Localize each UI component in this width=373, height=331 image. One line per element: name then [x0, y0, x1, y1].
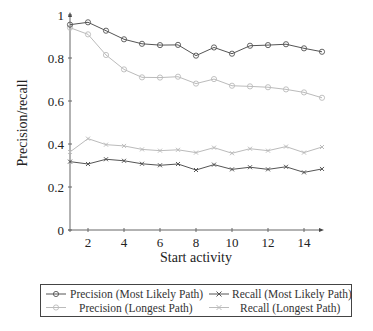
y-tick-label: 0.6: [48, 94, 65, 109]
x-tick-label: 10: [226, 235, 239, 250]
legend: Precision (Most Likely Path) Recall (Mos…: [41, 285, 352, 317]
x-tick-label: 12: [262, 235, 275, 250]
axes: [68, 12, 324, 232]
series-recall-longest-path: [68, 137, 324, 156]
y-tick-label: 0: [58, 223, 65, 238]
x-tick-label: 4: [121, 235, 128, 250]
x-tick-label: 6: [157, 235, 164, 250]
svg-text:Recall (Most Likely Path): Recall (Most Likely Path): [232, 288, 352, 301]
x-tick-label: 14: [298, 235, 312, 250]
y-axis-label: Precision/recall: [15, 79, 30, 166]
svg-text:Recall (Longest Path): Recall (Longest Path): [240, 302, 340, 315]
y-tick-label: 0.4: [48, 137, 65, 152]
y-tick-label: 0.2: [48, 180, 64, 195]
y-ticks: 00.20.40.60.81: [48, 8, 72, 238]
x-tick-label: 2: [85, 235, 92, 250]
series-recall-most-likely-path: [68, 157, 324, 174]
svg-text:Precision (Longest Path): Precision (Longest Path): [79, 302, 193, 315]
svg-text:Precision (Most Likely Path): Precision (Most Likely Path): [70, 288, 203, 301]
x-axis-arrow-icon: [319, 228, 324, 232]
y-tick-label: 0.8: [48, 51, 64, 66]
x-tick-label: 8: [193, 235, 200, 250]
series-precision-longest-path: [67, 25, 324, 100]
legend-item-precision-most-likely: Precision (Most Likely Path): [46, 288, 203, 301]
line-chart: 00.20.40.60.81 2468101214 Start activity…: [0, 0, 373, 331]
x-axis-label: Start activity: [160, 250, 232, 265]
series-group: [67, 20, 324, 175]
x-ticks: 2468101214: [85, 228, 311, 250]
y-tick-label: 1: [58, 8, 65, 23]
